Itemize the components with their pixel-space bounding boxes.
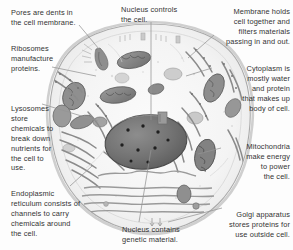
label-mitochondria: Mitochondria make energy to power the ce… xyxy=(228,142,290,182)
label-ribosomes: Ribosomes manufacture proteins. xyxy=(11,44,83,74)
vesicle xyxy=(164,68,182,80)
label-endoplasmic-reticulum: Endoplasmic reticulum consists of channe… xyxy=(11,189,97,239)
label-pores: Pores are dents in the cell membrane. xyxy=(11,8,97,28)
label-nucleus-genetic: Nucleus contains genetic material. xyxy=(122,225,204,245)
label-nucleus-controls: Nucleus controls the cell. xyxy=(121,5,197,25)
cell-diagram-page: Pores are dents in the cell membrane. Ri… xyxy=(0,0,293,250)
lysosome xyxy=(93,117,107,127)
vesicle xyxy=(115,73,129,83)
label-lysosomes: Lysosomes store chemicals to break down … xyxy=(11,104,69,173)
label-cytoplasm: Cytoplasm is mostly water and protein th… xyxy=(222,64,290,114)
label-golgi: Golgi apparatus stores proteins for use … xyxy=(203,210,290,240)
label-membrane: Membrane holds cell together and filters… xyxy=(204,7,290,47)
vesicle xyxy=(187,112,203,124)
nuclear-pore xyxy=(158,112,167,124)
